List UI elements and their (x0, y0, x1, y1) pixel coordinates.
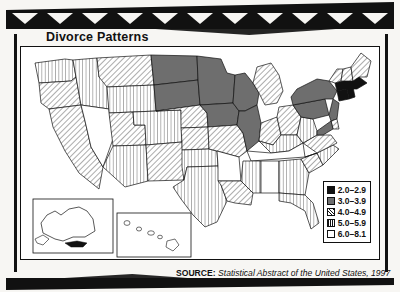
legend-label: 5.0–5.9 (338, 219, 366, 228)
chevron-triangle-icon (327, 13, 353, 24)
source-text: Statistical Abstract of the United State… (218, 268, 390, 278)
chevron-triangle-icon (187, 13, 213, 24)
legend-item: 5.0–5.9 (327, 218, 366, 228)
legend-item: 2.0–2.9 (327, 185, 366, 195)
legend-item: 3.0–3.9 (327, 196, 366, 206)
chevron-triangle-icon (82, 13, 108, 24)
legend-item: 4.0–4.9 (327, 207, 366, 217)
bottom-wedge-ornament (6, 278, 394, 290)
state-new-jersey (329, 99, 339, 121)
state-arizona (103, 145, 148, 187)
state-wyoming (107, 85, 156, 113)
chevron-triangle-icon (292, 13, 318, 24)
state-washington (35, 59, 76, 83)
chevron-triangle-icon (362, 13, 388, 24)
right-rule (385, 34, 388, 272)
chevron-triangle-icon (257, 13, 283, 24)
state-minnesota (197, 56, 235, 105)
state-maine (351, 53, 371, 81)
chevron-band-ornament (6, 12, 394, 29)
legend-label: 4.0–4.9 (338, 208, 366, 217)
legend-label: 6.0–8.1 (338, 230, 366, 239)
state-montana (97, 55, 154, 87)
map-legend: 2.0–2.9 3.0–3.9 4.0–4.9 5.0–5.9 6.0–8.1 (323, 181, 371, 243)
left-rule (14, 34, 17, 272)
chevron-triangle-icon (47, 13, 73, 24)
legend-swatch-icon (327, 186, 335, 194)
source-note: SOURCE: Statistical Abstract of the Unit… (176, 268, 390, 278)
legend-swatch-icon (327, 219, 335, 227)
legend-label: 3.0–3.9 (338, 197, 366, 206)
state-new-york (291, 79, 337, 105)
alaska-inset (33, 199, 113, 253)
source-label: SOURCE: (176, 268, 216, 278)
chevron-triangle-icon (117, 13, 143, 24)
figure-root: Divorce Patterns (0, 0, 400, 292)
legend-swatch-icon (327, 208, 335, 216)
hawaii-inset (117, 213, 191, 257)
state-alabama (261, 161, 279, 193)
legend-swatch-icon (327, 230, 335, 238)
legend-swatch-icon (327, 197, 335, 205)
state-kansas (181, 127, 209, 150)
page-title: Divorce Patterns (46, 30, 149, 44)
chevron-triangle-icon (222, 13, 248, 24)
state-new-mexico (146, 142, 184, 181)
map-frame: 2.0–2.9 3.0–3.9 4.0–4.9 5.0–5.9 6.0–8.1 (20, 46, 380, 260)
chevron-triangle-icon (152, 13, 178, 24)
state-maryland (317, 121, 333, 135)
top-shadow-ornament (140, 28, 350, 35)
chevron-triangle-icon (12, 13, 38, 24)
state-florida (279, 193, 319, 229)
legend-label: 2.0–2.9 (338, 186, 366, 195)
legend-item: 6.0–8.1 (327, 229, 366, 239)
